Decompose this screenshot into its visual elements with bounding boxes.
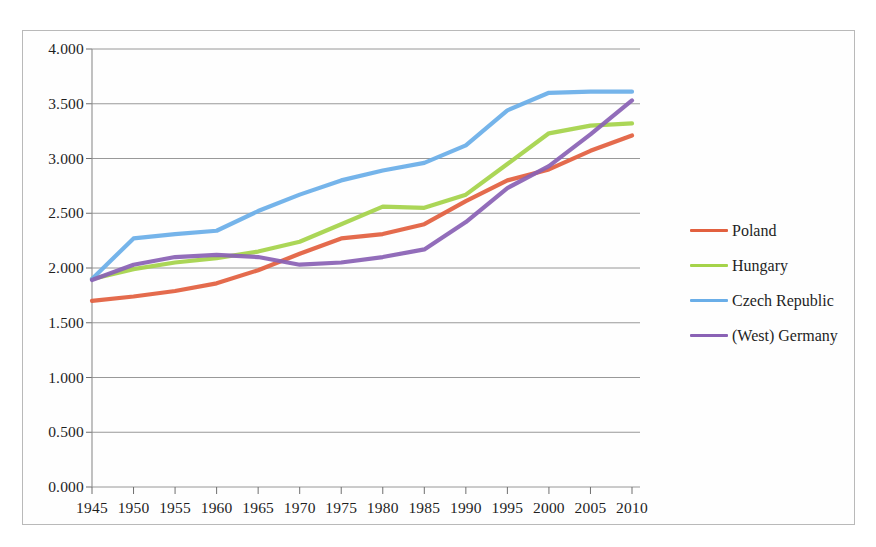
legend-item[interactable]: Poland (690, 213, 865, 248)
chart-legend: PolandHungaryCzech Republic(West) German… (690, 213, 865, 353)
y-axis-tick-label: 0.500 (28, 423, 84, 441)
x-axis-tick-label: 1955 (159, 499, 191, 517)
x-axis-tick-label: 2010 (616, 499, 648, 517)
x-axis-tick-label: 1985 (408, 499, 440, 517)
series-line-west-germany (92, 100, 632, 280)
line-chart: 0.0000.5001.0001.5002.0002.5003.0003.500… (0, 0, 876, 547)
x-axis-tick-label: 1980 (367, 499, 399, 517)
legend-color-swatch (690, 334, 728, 337)
x-axis-tick-label: 2000 (533, 499, 565, 517)
y-axis-tick-label: 2.000 (28, 259, 84, 277)
y-axis-tick-label: 1.000 (28, 369, 84, 387)
x-axis-tick-label: 1975 (325, 499, 357, 517)
x-axis-tick-label: 1960 (201, 499, 233, 517)
x-axis-tick-label: 1945 (76, 499, 108, 517)
x-axis-tick-label: 1950 (118, 499, 150, 517)
x-axis-tick-label: 1990 (450, 499, 482, 517)
y-axis-tick-label: 3.500 (28, 95, 84, 113)
x-axis-tick-label: 1995 (491, 499, 523, 517)
legend-color-swatch (690, 264, 728, 267)
x-axis-tick-label: 1965 (242, 499, 274, 517)
y-axis-tick-label: 2.500 (28, 204, 84, 222)
legend-item[interactable]: Hungary (690, 248, 865, 283)
legend-color-swatch (690, 229, 728, 232)
legend-label: Poland (732, 222, 776, 240)
y-axis-tick-label: 1.500 (28, 314, 84, 332)
legend-item[interactable]: Czech Republic (690, 283, 865, 318)
legend-color-swatch (690, 299, 728, 302)
y-axis-tick-label: 3.000 (28, 150, 84, 168)
y-axis-tick-label: 0.000 (28, 478, 84, 496)
legend-item[interactable]: (West) Germany (690, 318, 865, 353)
x-axis-tick-label: 2005 (575, 499, 607, 517)
x-axis-tick-label: 1970 (284, 499, 316, 517)
legend-label: Hungary (732, 257, 788, 275)
y-axis-tick-label: 4.000 (28, 40, 84, 58)
series-line-czech-republic (92, 92, 632, 279)
legend-label: (West) Germany (732, 327, 838, 345)
series-line-poland (92, 136, 632, 301)
legend-label: Czech Republic (732, 292, 834, 310)
